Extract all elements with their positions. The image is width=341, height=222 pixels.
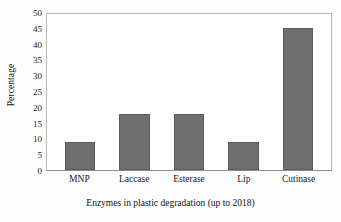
bar-esterase[interactable]: [174, 114, 204, 170]
bar-chart-figure: Percentage 50454035302520151050 MNPLacca…: [0, 0, 341, 222]
bar-slot: [162, 14, 216, 170]
bar-lip[interactable]: [228, 142, 258, 170]
y-axis-tick-label: 40: [33, 40, 42, 50]
bar-cutinase[interactable]: [283, 28, 313, 170]
x-axis-tick-label-laccase: Laccase: [107, 174, 162, 184]
bar-slot: [216, 14, 270, 170]
y-axis-tick-label: 5: [38, 150, 43, 160]
bar-series: [47, 14, 331, 170]
y-axis-tick-label: 20: [33, 103, 42, 113]
y-axis-title-text: Percentage: [6, 64, 16, 107]
y-axis-tick-label: 50: [33, 8, 42, 18]
y-axis-tick-label: 45: [33, 24, 42, 34]
x-axis-tick-label-lip: Lip: [216, 174, 271, 184]
y-axis-tick-label: 25: [33, 87, 42, 97]
bar-mnp[interactable]: [65, 142, 95, 170]
x-axis-tick-label-mnp: MNP: [52, 174, 107, 184]
x-axis-tick-label-cutinase: Cutinase: [271, 174, 326, 184]
y-axis-tick-label: 15: [33, 119, 42, 129]
x-axis-title: Enzymes in plastic degradation (up to 20…: [0, 198, 341, 208]
y-axis-tick-label: 30: [33, 71, 42, 81]
bar-slot: [53, 14, 107, 170]
x-axis-tick-labels: MNPLaccaseEsteraseLipCutinase: [46, 174, 332, 184]
y-axis-tick-label: 10: [33, 134, 42, 144]
y-axis-tick-label: 0: [38, 166, 43, 176]
x-axis-tick-label-esterase: Esterase: [162, 174, 217, 184]
bar-laccase[interactable]: [119, 114, 149, 170]
y-axis-tick-labels: 50454035302520151050: [18, 13, 44, 171]
bar-slot: [271, 14, 325, 170]
bar-slot: [107, 14, 161, 170]
plot-area: [46, 13, 332, 171]
y-axis-tick-label: 35: [33, 55, 42, 65]
